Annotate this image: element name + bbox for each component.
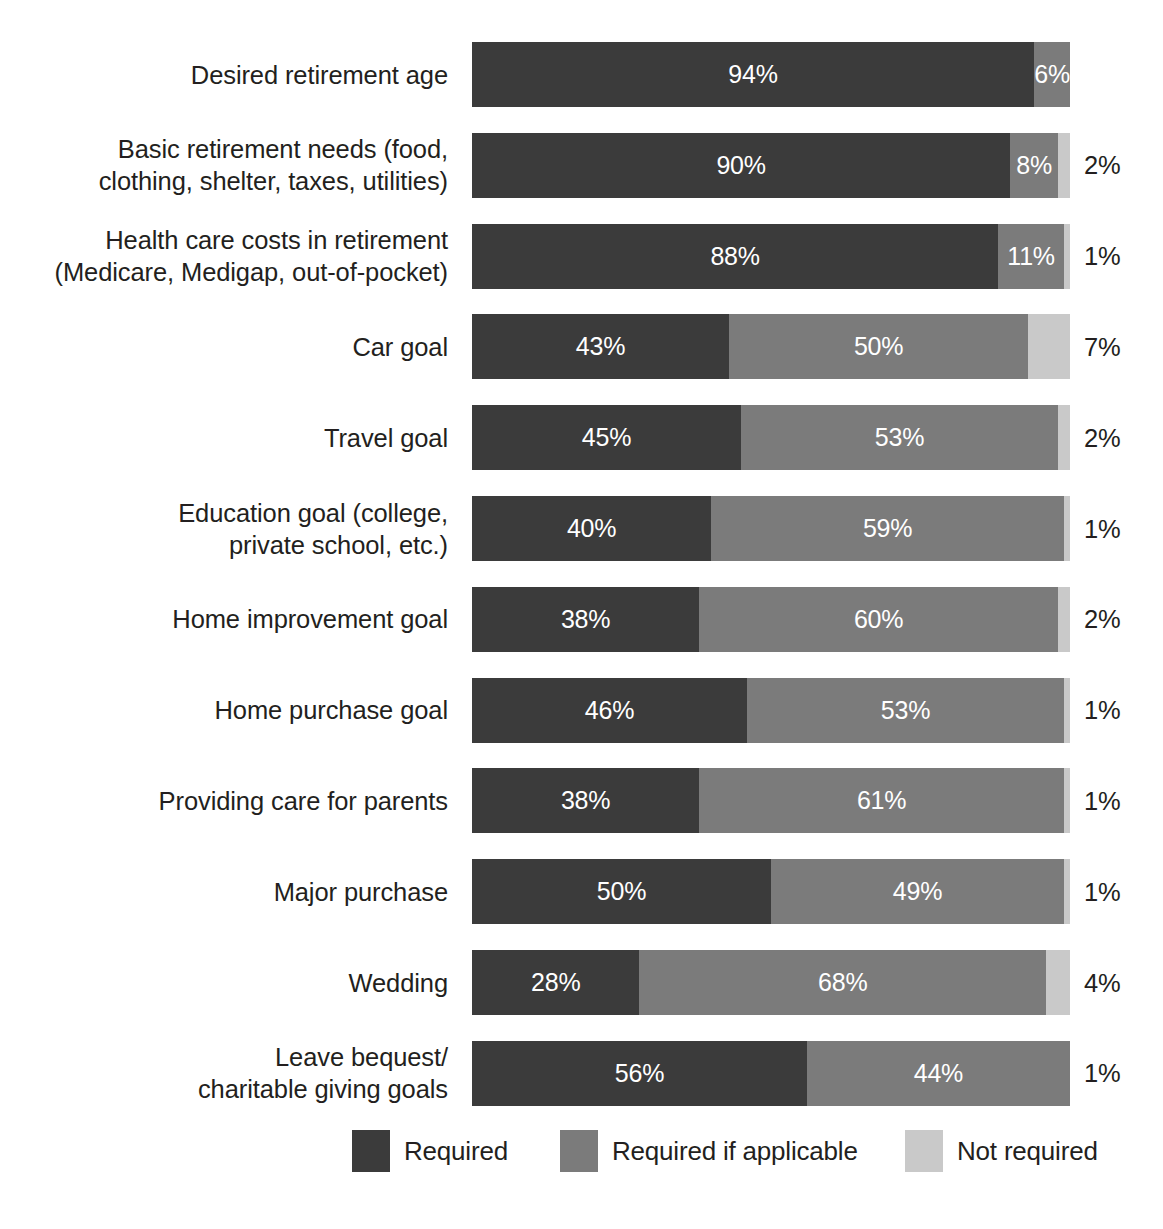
bar-outside-value: 1% [1084, 696, 1120, 725]
bar-segment: 50% [729, 314, 1028, 379]
bar-segment: 50% [472, 859, 771, 924]
legend-swatch [352, 1130, 390, 1172]
stacked-bar: 40%59%1% [472, 496, 1070, 561]
bar-segment-value: 1% [1064, 514, 1070, 543]
bar-segment: 46% [472, 678, 747, 743]
bar-outside-value: 1% [1084, 877, 1120, 906]
bar-segment-value: 61% [857, 786, 906, 815]
bar-segment-value: 53% [875, 423, 924, 452]
bar-segment: 40% [472, 496, 711, 561]
chart-legend: RequiredRequired if applicableNot requir… [0, 1128, 1163, 1178]
bar-segment: 94% [472, 42, 1034, 107]
bar-segment-value: 44% [914, 1059, 963, 1088]
bar-segment: 2% [1058, 587, 1070, 652]
bar-segment: 1% [1064, 768, 1070, 833]
bar-segment-value: 88% [710, 242, 759, 271]
row-category-label: Home purchase goal [18, 694, 448, 726]
bar-segment-value: 53% [881, 696, 930, 725]
bar-segment: 28% [472, 950, 639, 1015]
bar-outside-value: 2% [1084, 605, 1120, 634]
stacked-bar: 94%6% [472, 42, 1070, 107]
row-category-label: Car goal [18, 331, 448, 363]
legend-swatch [560, 1130, 598, 1172]
bar-segment: 60% [699, 587, 1058, 652]
chart-row: Wedding28%68%4%4% [0, 950, 1163, 1015]
row-category-label: Providing care for parents [18, 785, 448, 817]
bar-segment: 61% [699, 768, 1064, 833]
row-category-label: Wedding [18, 967, 448, 999]
row-category-label: Basic retirement needs (food, clothing, … [18, 133, 448, 197]
chart-row: Leave bequest/ charitable giving goals56… [0, 1041, 1163, 1106]
stacked-bar: 56%44%1% [472, 1041, 1070, 1106]
bar-segment-value: 6% [1034, 60, 1070, 89]
row-category-label: Education goal (college, private school,… [18, 497, 448, 561]
bar-segment-value: 40% [567, 514, 616, 543]
chart-row: Major purchase50%49%1%1% [0, 859, 1163, 924]
bar-segment: 44% [807, 1041, 1070, 1106]
bar-segment: 8% [1010, 133, 1058, 198]
bar-segment-value: 49% [893, 877, 942, 906]
bar-outside-value: 1% [1084, 786, 1120, 815]
bar-segment: 7% [1028, 314, 1070, 379]
row-category-label: Travel goal [18, 422, 448, 454]
bar-segment: 1% [1064, 496, 1070, 561]
bar-segment-value: 2% [1058, 605, 1070, 634]
stacked-bar: 38%60%2% [472, 587, 1070, 652]
bar-segment-value: 1% [1064, 877, 1070, 906]
stacked-bar: 38%61%1% [472, 768, 1070, 833]
stacked-bar-chart: Desired retirement age94%6%Basic retirem… [0, 0, 1163, 1229]
stacked-bar: 43%50%7% [472, 314, 1070, 379]
bar-segment-value: 59% [863, 514, 912, 543]
bar-segment: 59% [711, 496, 1064, 561]
stacked-bar: 46%53%1% [472, 678, 1070, 743]
bar-outside-value: 1% [1084, 514, 1120, 543]
bar-segment: 2% [1058, 133, 1070, 198]
chart-row: Education goal (college, private school,… [0, 496, 1163, 561]
legend-swatch [905, 1130, 943, 1172]
stacked-bar: 90%8%2% [472, 133, 1070, 198]
row-category-label: Major purchase [18, 876, 448, 908]
bar-segment: 1% [1064, 859, 1070, 924]
bar-segment-value: 7% [1031, 332, 1067, 361]
legend-item[interactable]: Not required [905, 1128, 1098, 1174]
bar-segment-value: 68% [818, 968, 867, 997]
bar-segment: 53% [741, 405, 1058, 470]
bar-segment: 1% [1064, 224, 1070, 289]
bar-segment-value: 43% [576, 332, 625, 361]
bar-segment-value: 1% [1064, 786, 1070, 815]
bar-segment: 11% [998, 224, 1064, 289]
legend-label: Required if applicable [612, 1136, 858, 1167]
legend-item[interactable]: Required [352, 1128, 508, 1174]
bar-outside-value: 7% [1084, 332, 1120, 361]
stacked-bar: 50%49%1% [472, 859, 1070, 924]
bar-segment: 38% [472, 768, 699, 833]
bar-segment-value: 2% [1058, 151, 1070, 180]
row-category-label: Leave bequest/ charitable giving goals [18, 1041, 448, 1105]
bar-segment: 6% [1034, 42, 1070, 107]
row-category-label: Health care costs in retirement (Medicar… [18, 224, 448, 288]
bar-segment-value: 90% [716, 151, 765, 180]
bar-segment-value: 11% [1007, 242, 1055, 271]
bar-segment: 90% [472, 133, 1010, 198]
bar-segment: 68% [639, 950, 1046, 1015]
chart-row: Home improvement goal38%60%2%2% [0, 587, 1163, 652]
bar-segment: 49% [771, 859, 1064, 924]
bar-outside-value: 1% [1084, 242, 1120, 271]
row-category-label: Desired retirement age [18, 59, 448, 91]
bar-outside-value: 2% [1084, 423, 1120, 452]
stacked-bar: 28%68%4% [472, 950, 1070, 1015]
bar-segment-value: 60% [854, 605, 903, 634]
bar-segment-value: 50% [597, 877, 646, 906]
chart-row: Providing care for parents38%61%1%1% [0, 768, 1163, 833]
bar-segment-value: 46% [585, 696, 634, 725]
bar-segment-value: 4% [1046, 968, 1070, 997]
bar-segment-value: 38% [561, 786, 610, 815]
bar-segment-value: 38% [561, 605, 610, 634]
bar-segment-value: 1% [1064, 696, 1070, 725]
bar-segment-value: 2% [1058, 423, 1070, 452]
bar-segment: 1% [1064, 678, 1070, 743]
bar-segment-value: 94% [728, 60, 777, 89]
chart-row: Basic retirement needs (food, clothing, … [0, 133, 1163, 198]
stacked-bar: 88%11%1% [472, 224, 1070, 289]
legend-item[interactable]: Required if applicable [560, 1128, 858, 1174]
